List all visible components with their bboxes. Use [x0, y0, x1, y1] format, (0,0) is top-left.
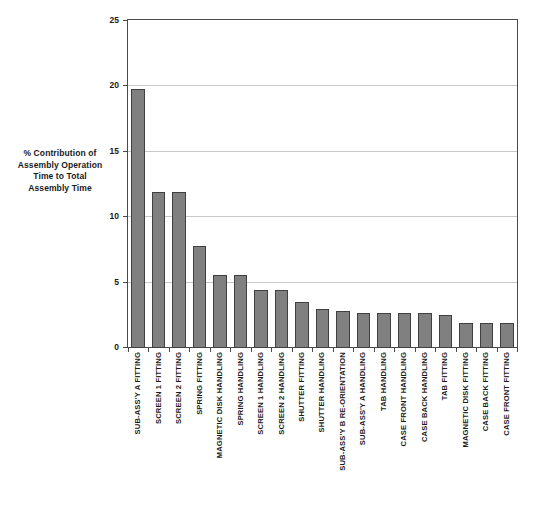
x-tick-label: CASE FRONT FITTING	[503, 352, 511, 436]
y-tick-mark-5	[123, 282, 127, 283]
bar	[336, 311, 350, 348]
bar	[213, 275, 227, 348]
bar	[316, 309, 330, 348]
x-label-slot: SCREEN 2 HANDLING	[271, 352, 291, 502]
bar	[398, 313, 412, 348]
bar-slot	[398, 20, 412, 348]
x-tick-label: SCREEN 1 FITTING	[155, 352, 163, 424]
bar-slot	[172, 20, 186, 348]
y-tick-mark-10	[123, 216, 127, 217]
x-label-slot: MAGNETIC DISK HANDLING	[210, 352, 230, 502]
x-label-slot: SUB-ASS'Y A HANDLING	[353, 352, 373, 502]
x-tick-label: CASE BACK FITTING	[482, 352, 490, 431]
bar-slot	[459, 20, 473, 348]
x-label-slot: MAGNETIC DISK FITTING	[456, 352, 476, 502]
bar	[295, 302, 309, 348]
x-tick-label: SHUTTER HANDLING	[318, 352, 326, 432]
bar	[234, 275, 248, 348]
bar	[480, 323, 494, 348]
y-axis-title-line-4: Assembly Time	[8, 183, 112, 195]
bar-slot	[295, 20, 309, 348]
bar-slot	[275, 20, 289, 348]
bar-slot	[193, 20, 207, 348]
x-label-slot: TAB FITTING	[435, 352, 455, 502]
y-tick-mark-0	[123, 347, 127, 348]
x-label-slot: SCREEN 2 FITTING	[169, 352, 189, 502]
x-label-slot: SHUTTER HANDLING	[312, 352, 332, 502]
x-tick-label: CASE FRONT HANDLING	[400, 352, 408, 446]
y-tick-label-0: 0	[93, 343, 119, 351]
bar-slot	[213, 20, 227, 348]
bar-slot	[418, 20, 432, 348]
bar-slot	[234, 20, 248, 348]
bar	[172, 192, 186, 348]
y-axis-title: % Contribution of Assembly Operation Tim…	[8, 148, 112, 194]
bar	[131, 89, 145, 348]
bar-slot	[480, 20, 494, 348]
bar	[275, 290, 289, 348]
x-label-slot: SUB-ASS'Y B RE-ORIENTATION	[333, 352, 353, 502]
bar-slot	[500, 20, 514, 348]
bar-slot	[316, 20, 330, 348]
x-tick-label: SHUTTER FITTING	[298, 352, 306, 422]
bar-slot	[131, 20, 145, 348]
bar	[193, 246, 207, 348]
x-tick-label: SPRING FITTING	[196, 352, 204, 415]
x-label-slot: SCREEN 1 FITTING	[148, 352, 168, 502]
y-tick-label-5: 5	[93, 278, 119, 286]
bar	[357, 313, 371, 348]
x-axis-labels: SUB-ASS'Y A FITTINGSCREEN 1 FITTINGSCREE…	[128, 352, 517, 512]
bar-slot	[357, 20, 371, 348]
x-tick-label: TAB FITTING	[441, 352, 449, 400]
bar-slot	[439, 20, 453, 348]
bar	[439, 315, 453, 348]
y-tick-mark-25	[123, 20, 127, 21]
y-axis-title-line-2: Assembly Operation	[8, 160, 112, 172]
x-label-slot: SCREEN 1 HANDLING	[251, 352, 271, 502]
y-tick-label-15: 15	[93, 147, 119, 155]
bar-slot	[336, 20, 350, 348]
x-tick-mark	[517, 348, 518, 352]
x-tick-label: SCREEN 2 FITTING	[175, 352, 183, 424]
bar-chart: % Contribution of Assembly Operation Tim…	[0, 0, 535, 518]
y-tick-label-10: 10	[93, 212, 119, 220]
x-tick-label: TAB HANDLING	[380, 352, 388, 411]
bar-series	[128, 20, 517, 348]
x-label-slot: SHUTTER FITTING	[292, 352, 312, 502]
bar-slot	[254, 20, 268, 348]
bar	[377, 313, 391, 348]
bar-slot	[152, 20, 166, 348]
x-tick-label: SCREEN 2 HANDLING	[278, 352, 286, 435]
y-tick-label-20: 20	[93, 81, 119, 89]
x-label-slot: CASE FRONT HANDLING	[394, 352, 414, 502]
x-tick-label: SUB-ASS'Y A HANDLING	[359, 352, 367, 445]
bar	[152, 192, 166, 348]
x-tick-label: MAGNETIC DISK HANDLING	[216, 352, 224, 458]
x-label-slot: CASE BACK HANDLING	[415, 352, 435, 502]
y-tick-mark-20	[123, 85, 127, 86]
x-tick-label: SCREEN 1 HANDLING	[257, 352, 265, 435]
bar	[254, 290, 268, 348]
x-label-slot: CASE FRONT FITTING	[497, 352, 517, 502]
bar	[418, 313, 432, 348]
x-label-slot: SPRING FITTING	[189, 352, 209, 502]
bar	[459, 323, 473, 348]
y-tick-label-25: 25	[93, 16, 119, 24]
x-label-slot: TAB HANDLING	[374, 352, 394, 502]
x-tick-label: SPRING HANDLING	[237, 352, 245, 426]
x-tick-label: CASE BACK HANDLING	[421, 352, 429, 442]
bar-slot	[377, 20, 391, 348]
y-axis-title-line-3: Time to Total	[8, 171, 112, 183]
x-tick-label: SUB-ASS'Y B RE-ORIENTATION	[339, 352, 347, 471]
x-tick-label: MAGNETIC DISK FITTING	[462, 352, 470, 448]
y-tick-mark-15	[123, 151, 127, 152]
x-tick-label: SUB-ASS'Y A FITTING	[134, 352, 142, 434]
x-label-slot: SUB-ASS'Y A FITTING	[128, 352, 148, 502]
x-label-slot: CASE BACK FITTING	[476, 352, 496, 502]
bar	[500, 323, 514, 348]
x-label-slot: SPRING HANDLING	[230, 352, 250, 502]
